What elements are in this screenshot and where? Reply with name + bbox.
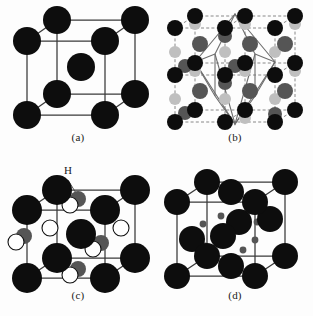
panel-a-stage bbox=[0, 0, 156, 138]
panel-d-caption: (d) bbox=[157, 289, 313, 301]
body-center-atom bbox=[67, 53, 95, 81]
panel-c-stage: H bbox=[0, 158, 156, 296]
hydrogen-label: H bbox=[64, 164, 72, 176]
bcc-unit-cell-diagram bbox=[0, 0, 156, 138]
panel-b-caption: (b) bbox=[157, 131, 313, 143]
panel-d: (d) bbox=[157, 158, 313, 316]
panel-b: (b) bbox=[157, 0, 313, 158]
panel-a-caption: (a) bbox=[0, 131, 156, 143]
panel-a: (a) bbox=[0, 0, 156, 158]
crystal-structure-figure: (a) bbox=[0, 0, 313, 316]
fcc-interstitial-diagram bbox=[157, 158, 313, 296]
panel-c: H (c) bbox=[0, 158, 156, 316]
panel-c-caption: (c) bbox=[0, 289, 156, 301]
supercell-polyhedron-diagram bbox=[157, 0, 313, 138]
body-center-atom bbox=[66, 219, 96, 249]
panel-b-stage bbox=[157, 0, 313, 138]
bcc-hydrogen-sites-diagram bbox=[0, 158, 156, 296]
panel-d-stage bbox=[157, 158, 313, 296]
